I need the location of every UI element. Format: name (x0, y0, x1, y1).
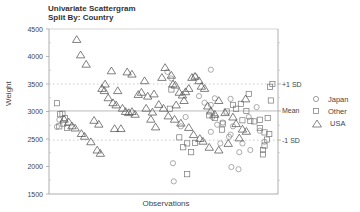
legend: Japan Other USA (312, 93, 348, 129)
svg-text:+1 SD: +1 SD (282, 81, 302, 88)
svg-text:2000: 2000 (27, 163, 43, 170)
legend-label: Other (328, 107, 347, 116)
legend-item-usa: USA (312, 117, 348, 129)
triangle-marker-icon (312, 119, 322, 128)
scatter-plot: 1500200025003000350040004500+1 SDMean-1 … (0, 0, 360, 212)
svg-text:4500: 4500 (27, 26, 43, 33)
legend-label: USA (330, 119, 345, 128)
svg-text:2500: 2500 (27, 136, 43, 143)
svg-text:-1 SD: -1 SD (282, 137, 300, 144)
legend-item-japan: Japan (312, 93, 348, 105)
svg-text:4000: 4000 (27, 53, 43, 60)
circle-marker-icon (312, 95, 320, 103)
svg-text:3000: 3000 (27, 108, 43, 115)
svg-text:1500: 1500 (27, 191, 43, 198)
square-marker-icon (312, 107, 320, 115)
svg-text:3500: 3500 (27, 81, 43, 88)
legend-item-other: Other (312, 105, 348, 117)
svg-text:Mean: Mean (282, 107, 300, 114)
legend-label: Japan (328, 95, 348, 104)
